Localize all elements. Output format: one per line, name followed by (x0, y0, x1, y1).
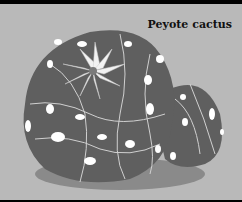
peyote-cactus-illustration (0, 4, 242, 200)
image-frame: Peyote cactus (0, 0, 242, 202)
caption-label: Peyote cactus (148, 18, 232, 31)
illustration-panel: Peyote cactus (0, 4, 242, 200)
